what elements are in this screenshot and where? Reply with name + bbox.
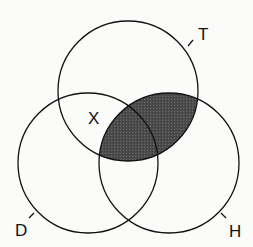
label-d: D xyxy=(15,221,27,240)
label-tick-d xyxy=(29,213,34,218)
label-h: H xyxy=(229,222,241,241)
shaded-region-t-intersect-h xyxy=(99,93,239,233)
label-t: T xyxy=(198,25,208,44)
venn-diagram: T D H X xyxy=(0,0,253,247)
label-tick-h xyxy=(221,213,226,218)
region-label-x: X xyxy=(88,109,99,128)
label-tick-t xyxy=(188,40,193,46)
